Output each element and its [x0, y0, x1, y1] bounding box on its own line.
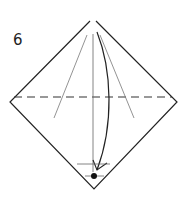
- target-dot: [91, 173, 97, 179]
- origami-diagram: [0, 0, 191, 197]
- right-crease: [100, 35, 134, 118]
- left-crease: [54, 35, 87, 118]
